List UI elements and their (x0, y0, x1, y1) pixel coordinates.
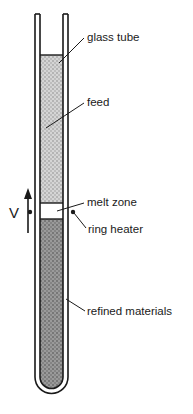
refined-materials-region (38, 219, 65, 395)
tube-contents (38, 55, 65, 395)
diagram-canvas: V glass tube feed melt zone ring heater … (0, 0, 193, 414)
velocity-arrow-head (24, 188, 32, 199)
melt-zone-region (38, 203, 65, 219)
melt-zone-label: melt zone (87, 196, 137, 208)
velocity-label: V (9, 204, 19, 221)
feed-label: feed (87, 96, 109, 108)
zone-refining-diagram: V glass tube feed melt zone ring heater … (0, 0, 193, 414)
refined-materials-leader (66, 299, 85, 311)
refined-materials-label: refined materials (87, 305, 172, 317)
glass-tube-label: glass tube (87, 31, 139, 43)
feed-region (38, 55, 65, 203)
ring-heater-label: ring heater (88, 223, 143, 235)
ring-heater-leader (74, 213, 86, 228)
